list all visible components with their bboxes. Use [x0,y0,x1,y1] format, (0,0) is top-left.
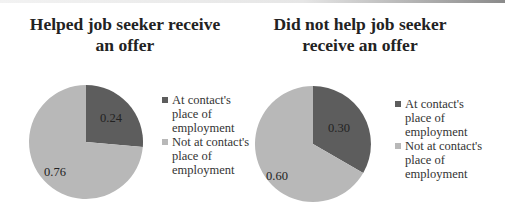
slice-label-dark: 0.24 [100,111,123,125]
pie: 0.30 0.60 [254,85,372,203]
legend-item-at-contact: At contact's place of employment [162,93,257,135]
chart-title: Helped job seeker receive an offer [0,14,250,56]
slice-label-light: 0.76 [44,165,66,179]
pie-chart-helped: Helped job seeker receive an offer 0.24 … [0,0,250,209]
legend-swatch-light [162,139,168,145]
legend-item-at-contact: At contact's place of employment [395,97,505,139]
legend: At contact's place of employment Not at … [395,97,505,181]
slice-label-light: 0.60 [266,169,288,183]
legend-item-not-at-contact: Not at contact's place of employment [395,139,505,181]
legend-item-not-at-contact: Not at contact's place of employment [162,135,257,177]
legend-swatch-dark [162,97,168,103]
pie-chart-did-not-help: Did not help job seeker receive an offer… [250,0,505,209]
chart-title: Did not help job seeker receive an offer [250,14,470,56]
legend-swatch-light [395,143,401,149]
slice-label-dark: 0.30 [328,121,350,135]
legend: At contact's place of employment Not at … [162,93,257,177]
legend-swatch-dark [395,101,401,107]
pie: 0.24 0.76 [28,84,144,200]
